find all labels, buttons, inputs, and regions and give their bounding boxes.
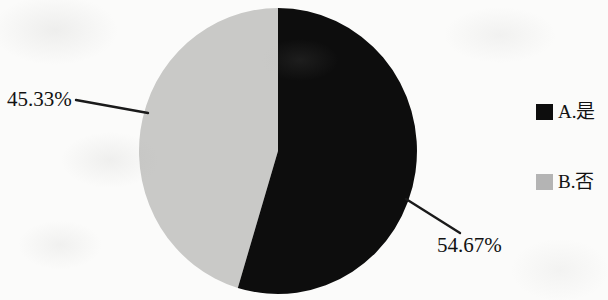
legend-swatch-a-icon bbox=[536, 104, 553, 120]
legend-item-b[interactable]: B.否 bbox=[536, 170, 595, 194]
pie-chart-svg bbox=[0, 0, 608, 300]
slice-label-gray-percent: 45.33% bbox=[7, 89, 72, 110]
legend-swatch-b-icon bbox=[536, 174, 553, 190]
leader-line-black bbox=[406, 199, 460, 233]
legend-label-b: B.否 bbox=[558, 172, 594, 192]
pie-chart-figure: 45.33% 54.67% A.是 B.否 bbox=[0, 0, 608, 300]
legend-label-a: A.是 bbox=[558, 102, 595, 122]
chart-legend: A.是 B.否 bbox=[536, 100, 595, 240]
leader-line-gray bbox=[76, 100, 148, 113]
legend-item-a[interactable]: A.是 bbox=[536, 100, 595, 124]
slice-label-black-percent: 54.67% bbox=[437, 235, 502, 256]
